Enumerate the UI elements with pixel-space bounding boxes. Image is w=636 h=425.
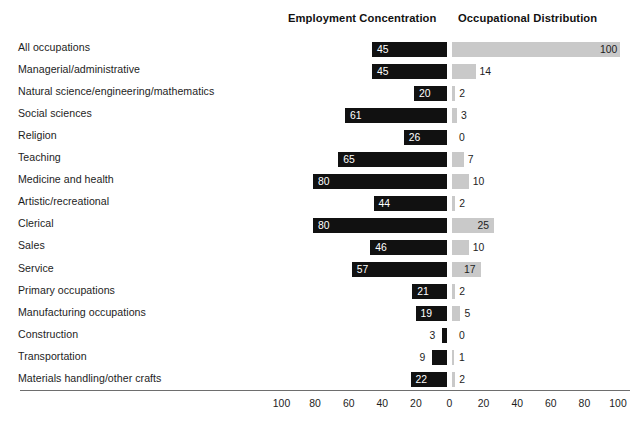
occupational-distribution-value: 10 [473,174,485,189]
chart-row: Clerical8025 [0,214,636,236]
occupational-distribution-value: 0 [459,130,465,145]
row-label: Primary occupations [18,284,115,296]
occupational-distribution-bar [452,86,455,101]
employment-concentration-value: 80 [318,174,330,189]
occupational-distribution-bar [452,284,455,299]
axis-tick-label: 60 [538,398,564,409]
occupational-distribution-bar [452,372,455,387]
occupational-distribution-value: 10 [473,240,485,255]
chart-row: Construction30 [0,325,636,347]
employment-concentration-value: 46 [375,240,387,255]
chart-row: Service5717 [0,259,636,281]
row-label: Social sciences [18,107,92,119]
occupational-distribution-value: 2 [459,372,465,387]
occupational-distribution-bar [452,64,476,79]
axis-tick-label: 100 [269,398,295,409]
occupational-distribution-value: 25 [474,218,489,233]
employment-concentration-value: 61 [350,108,362,123]
occupational-distribution-value: 5 [464,306,470,321]
occupational-distribution-bar [452,108,457,123]
chart-row: Materials handling/other crafts222 [0,369,636,391]
occupational-distribution-value: 0 [459,328,465,343]
chart-row: Teaching657 [0,148,636,170]
chart-row: Manufacturing occupations195 [0,303,636,325]
employment-concentration-value: 9 [419,350,425,365]
employment-concentration-value: 65 [343,152,355,167]
occupational-distribution-value: 2 [459,284,465,299]
row-label: Religion [18,129,57,141]
row-label: Manufacturing occupations [18,306,146,318]
employment-concentration-value: 20 [419,86,431,101]
employment-concentration-value: 22 [416,372,428,387]
occupational-distribution-bar [452,306,460,321]
column-header-occupational-distribution: Occupational Distribution [458,12,597,24]
employment-concentration-value: 26 [409,130,421,145]
axis-tick-label: 20 [403,398,429,409]
row-label: Teaching [18,151,61,163]
row-label: Clerical [18,217,54,229]
row-label: Materials handling/other crafts [18,372,161,384]
chart-row: Natural science/engineering/mathematics2… [0,82,636,104]
occupational-distribution-value: 2 [459,86,465,101]
chart-row: Social sciences613 [0,104,636,126]
chart-row: Primary occupations212 [0,281,636,303]
occupational-distribution-bar [452,350,454,365]
employment-concentration-value: 57 [357,262,369,277]
occupational-distribution-value: 2 [459,196,465,211]
occupational-distribution-bar [452,196,455,211]
chart-row: Medicine and health8010 [0,170,636,192]
column-header-employment-concentration: Employment Concentration [288,12,436,24]
occupational-distribution-value: 1 [459,350,465,365]
axis-tick-label: 80 [302,398,328,409]
axis-tick-label: 0 [437,398,463,409]
occupational-distribution-bar [452,42,620,57]
employment-concentration-value: 45 [377,42,389,57]
occupational-distribution-value: 7 [468,152,474,167]
employment-concentration-value: 19 [421,306,433,321]
employment-concentration-value: 45 [377,64,389,79]
chart-row: Sales4610 [0,236,636,258]
row-label: All occupations [18,41,90,53]
row-label: Artistic/recreational [18,195,109,207]
chart-root: Employment Concentration Occupational Di… [0,0,636,425]
chart-row: Managerial/administrative4514 [0,60,636,82]
axis-tick-label: 20 [471,398,497,409]
occupational-distribution-value: 14 [480,64,492,79]
employment-concentration-value: 3 [429,328,435,343]
chart-row: Artistic/recreational442 [0,192,636,214]
chart-row: Religion260 [0,126,636,148]
occupational-distribution-value: 100 [600,42,615,57]
chart-row: Transportation91 [0,347,636,369]
employment-concentration-value: 21 [417,284,429,299]
chart-row: All occupations45100 [0,38,636,60]
row-label: Medicine and health [18,173,114,185]
row-label: Managerial/administrative [18,63,140,75]
row-label: Construction [18,328,78,340]
axis-tick-label: 60 [336,398,362,409]
employment-concentration-value: 44 [379,196,391,211]
occupational-distribution-bar [452,152,464,167]
occupational-distribution-value: 17 [461,262,476,277]
occupational-distribution-bar [452,174,469,189]
employment-concentration-value: 80 [318,218,330,233]
employment-concentration-bar [432,350,447,365]
axis-baseline [20,390,630,391]
occupational-distribution-bar [452,240,469,255]
occupational-distribution-value: 3 [461,108,467,123]
axis-tick-label: 40 [369,398,395,409]
axis-tick-label: 80 [571,398,597,409]
row-label: Transportation [18,350,87,362]
employment-concentration-bar [313,174,447,189]
row-label: Sales [18,239,45,251]
employment-concentration-bar [442,328,447,343]
row-label: Natural science/engineering/mathematics [18,85,214,97]
employment-concentration-bar [313,218,447,233]
axis-tick-label: 100 [605,398,631,409]
row-label: Service [18,262,54,274]
axis-tick-label: 40 [504,398,530,409]
